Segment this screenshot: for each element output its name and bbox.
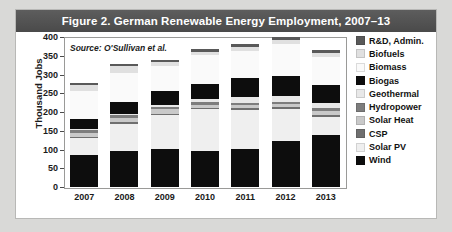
x-axis-tick-label: 2013: [306, 192, 346, 202]
legend-item[interactable]: Biofuels: [356, 47, 432, 60]
bar-segment: [191, 109, 219, 151]
x-axis-tick-label: 2012: [266, 192, 306, 202]
bar-segment: [70, 85, 98, 92]
legend-swatch-icon: [356, 156, 365, 165]
legend-item[interactable]: Solar PV: [356, 140, 432, 153]
legend-item-label: R&D, Admin.: [369, 36, 424, 46]
legend-item-label: Wind: [369, 155, 391, 165]
y-axis-tick-label: 350: [28, 51, 58, 61]
x-axis-tick-label: 2007: [64, 192, 104, 202]
bar-2011: [231, 44, 259, 187]
bar-segment: [151, 66, 179, 91]
y-axis-tick-label: 50: [28, 163, 58, 173]
figure-title-bar: Figure 2. German Renewable Energy Employ…: [16, 10, 436, 32]
x-axis-tick-label: 2009: [145, 192, 185, 202]
source-note: Source: O'Sullivan et al.: [70, 43, 167, 53]
legend-item-label: Solar PV: [369, 142, 406, 152]
bar-2012: [272, 37, 300, 187]
legend-swatch-icon: [356, 76, 365, 85]
legend-item-label: Biofuels: [369, 49, 405, 59]
bar-segment: [70, 91, 98, 119]
bar-segment: [110, 124, 138, 151]
bar-segment: [312, 57, 340, 86]
bar-segment: [312, 135, 340, 187]
plot-area-right-border: [346, 37, 347, 189]
figure-container: Figure 2. German Renewable Energy Employ…: [16, 10, 436, 218]
y-axis-tick-label: 100: [28, 145, 58, 155]
bar-segment: [312, 117, 340, 136]
bar-segment: [110, 151, 138, 187]
legend-swatch-icon: [356, 49, 365, 58]
bar-segment: [231, 149, 259, 187]
bar-segment: [312, 85, 340, 103]
figure-title: Figure 2. German Renewable Energy Employ…: [16, 10, 436, 32]
bar-segment: [272, 141, 300, 187]
legend-item[interactable]: Solar Heat: [356, 114, 432, 127]
bar-segment: [231, 78, 259, 98]
bar-2009: [151, 60, 179, 187]
bar-segment: [272, 109, 300, 141]
bar-segment: [70, 138, 98, 155]
bar-segment: [151, 115, 179, 148]
legend-swatch-icon: [356, 36, 365, 45]
legend-item[interactable]: Biogas: [356, 74, 432, 87]
bar-segment: [272, 44, 300, 76]
x-axis-tick-label: 2011: [225, 192, 265, 202]
bar-segment: [272, 76, 300, 97]
x-axis-tick-label: 2010: [185, 192, 225, 202]
legend-swatch-icon: [356, 63, 365, 72]
legend-item[interactable]: Hydropower: [356, 100, 432, 113]
bar-2007: [70, 83, 98, 187]
bar-2010: [191, 49, 219, 187]
bar-segment: [191, 151, 219, 187]
bar-segment: [231, 110, 259, 149]
legend-item[interactable]: R&D, Admin.: [356, 34, 432, 47]
legend-item[interactable]: CSP: [356, 127, 432, 140]
y-axis-tick-label: 200: [28, 107, 58, 117]
y-axis-tick-label: 150: [28, 126, 58, 136]
y-axis-tick-label: 250: [28, 88, 58, 98]
legend-item[interactable]: Biomass: [356, 61, 432, 74]
bar-segment: [191, 84, 219, 99]
legend-item-label: Geothermal: [369, 89, 419, 99]
bar-segment: [110, 102, 138, 114]
bar-segment: [110, 73, 138, 102]
legend-item-label: Biomass: [369, 62, 407, 72]
legend-swatch-icon: [356, 103, 365, 112]
x-axis-tick-label: 2008: [104, 192, 144, 202]
legend-item[interactable]: Wind: [356, 154, 432, 167]
legend-swatch-icon: [356, 116, 365, 125]
bar-segment: [70, 119, 98, 129]
bar-segment: [231, 51, 259, 78]
bar-segment: [151, 91, 179, 105]
y-axis-tick-label: 0: [28, 182, 58, 192]
legend-swatch-icon: [356, 143, 365, 152]
bar-2008: [110, 64, 138, 187]
bar-segment: [191, 55, 219, 84]
legend-item-label: Hydropower: [369, 102, 422, 112]
legend-item-label: CSP: [369, 129, 388, 139]
chart-canvas: Thousand Jobs 050100150200250300350400 S…: [16, 32, 436, 218]
legend-swatch-icon: [356, 129, 365, 138]
bar-2013: [312, 50, 340, 187]
chart-legend: R&D, Admin.BiofuelsBiomassBiogasGeotherm…: [356, 34, 432, 167]
y-axis-tick-label: 400: [28, 32, 58, 42]
legend-item-label: Biogas: [369, 76, 399, 86]
y-axis-tick-label: 300: [28, 70, 58, 80]
legend-swatch-icon: [356, 89, 365, 98]
legend-item-label: Solar Heat: [369, 115, 414, 125]
bar-segment: [70, 155, 98, 187]
legend-item[interactable]: Geothermal: [356, 87, 432, 100]
bar-segment: [151, 149, 179, 187]
